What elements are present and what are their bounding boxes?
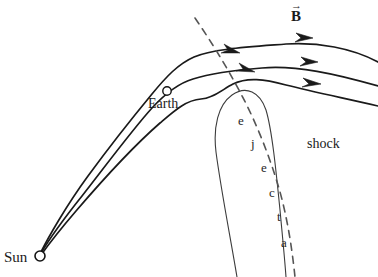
field-line-middle-arrowhead <box>300 57 318 66</box>
field-line-inner-mid-arrowhead <box>236 63 255 72</box>
magnetic-field-symbol: B <box>291 9 301 24</box>
ejecta-boundary <box>215 90 286 277</box>
field-line-inner-arrowhead <box>302 78 321 87</box>
field-line-outer-arrowhead <box>295 33 313 42</box>
earth-marker-icon <box>163 87 171 95</box>
ejecta-letter: a <box>281 235 287 251</box>
shock-boundary <box>195 18 295 277</box>
ejecta-letter: e <box>261 160 267 176</box>
ejecta-letter: e <box>238 113 244 129</box>
ejecta-letter: j <box>251 136 255 152</box>
ejecta-letter: t <box>277 209 281 225</box>
earth-label: Earth <box>148 97 178 111</box>
shock-label: shock <box>307 137 340 151</box>
magnetic-field-vector-label: → B <box>291 2 301 24</box>
sun-marker-icon <box>35 251 45 261</box>
ejecta-letter: c <box>269 185 275 201</box>
figure-canvas: Sun Earth shock → B e j e c t a <box>0 0 378 277</box>
sun-label: Sun <box>4 250 27 265</box>
field-line-inner <box>41 80 378 255</box>
